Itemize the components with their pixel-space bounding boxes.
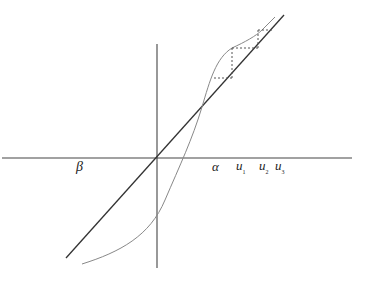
u1-label: u1 [236, 158, 246, 175]
beta-label: β [76, 159, 83, 175]
u2-label: u2 [259, 158, 269, 175]
identity-line [66, 15, 284, 258]
u3-label: u3 [275, 158, 285, 175]
cobweb-staircase [214, 30, 274, 78]
function-curve [82, 17, 275, 264]
cobweb-diagram [0, 0, 368, 281]
alpha-label: α [212, 159, 219, 175]
